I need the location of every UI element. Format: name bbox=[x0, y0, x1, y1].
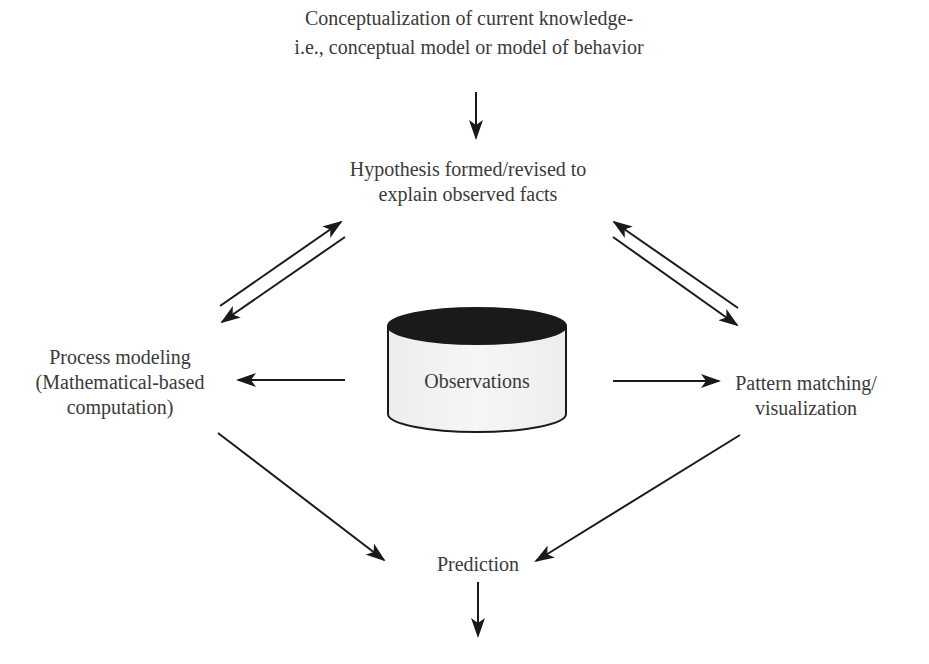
arrow-process-to-hypothesis bbox=[220, 222, 341, 306]
conceptualization-line-2: i.e., conceptual model or model of behav… bbox=[269, 33, 669, 62]
process-line-1: Process modeling bbox=[10, 345, 230, 370]
prediction-node: Prediction bbox=[408, 551, 548, 577]
process-line-2: (Mathematical-based bbox=[10, 370, 230, 395]
arrow-process-to-prediction bbox=[218, 433, 384, 560]
hypothesis-line-2: explain observed facts bbox=[318, 182, 618, 207]
pattern-matching-node: Pattern matching/ visualization bbox=[716, 371, 896, 421]
arrow-pattern-to-hypothesis bbox=[614, 222, 738, 308]
conceptualization-line-1: Conceptualization of current knowledge- bbox=[269, 4, 669, 33]
diagram-canvas: Conceptualization of current knowledge- … bbox=[0, 0, 929, 664]
conceptualization-node: Conceptualization of current knowledge- … bbox=[269, 4, 669, 62]
observations-label: Observations bbox=[387, 368, 567, 394]
arrow-hypothesis-to-process bbox=[222, 237, 345, 322]
arrow-hypothesis-to-pattern bbox=[613, 237, 737, 325]
pattern-line-1: Pattern matching/ bbox=[716, 371, 896, 396]
process-modeling-node: Process modeling (Mathematical-based com… bbox=[10, 345, 230, 420]
process-line-3: computation) bbox=[10, 395, 230, 420]
arrow-pattern-to-prediction bbox=[536, 435, 740, 561]
hypothesis-node: Hypothesis formed/revised to explain obs… bbox=[318, 157, 618, 207]
pattern-line-2: visualization bbox=[716, 396, 896, 421]
hypothesis-line-1: Hypothesis formed/revised to bbox=[318, 157, 618, 182]
